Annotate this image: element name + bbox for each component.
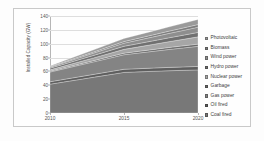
y-tick-label: 60 <box>43 69 48 74</box>
legend-item[interactable]: Garbage <box>205 82 264 92</box>
legend-swatch-icon <box>205 66 208 69</box>
chart-figure: Installed Capacity (GW) 0204060801001201… <box>0 0 264 141</box>
chart-frame: Installed Capacity (GW) 0204060801001201… <box>13 8 251 127</box>
legend-item-label: Coal fired <box>211 113 232 118</box>
chart-legend: PhotovoltaicBiomassWind powerHydro power… <box>205 34 264 120</box>
y-tick-mark <box>48 71 50 72</box>
legend-swatch-icon <box>205 75 208 78</box>
stacked-area-series <box>50 16 198 113</box>
y-tick-label: 80 <box>43 55 48 60</box>
y-tick-label: 120 <box>40 27 48 32</box>
legend-item-label: Gas power <box>211 94 235 99</box>
legend-item[interactable]: Nuclear power <box>205 72 264 82</box>
legend-item-label: Oil fired <box>211 103 228 108</box>
legend-swatch-icon <box>205 113 208 116</box>
legend-swatch-icon <box>205 104 208 107</box>
legend-item-label: Garbage <box>211 84 230 89</box>
y-axis-title: Installed Capacity (GW) <box>26 11 31 85</box>
legend-item-label: Hydro power <box>211 65 239 70</box>
legend-item-label: Biomass <box>211 46 230 51</box>
legend-item[interactable]: Coal fired <box>205 110 264 120</box>
legend-swatch-icon <box>205 94 208 97</box>
x-tick-label: 2010 <box>45 116 56 121</box>
legend-swatch-icon <box>205 56 208 59</box>
y-tick-mark <box>48 57 50 58</box>
legend-item[interactable]: Hydro power <box>205 63 264 73</box>
x-tick-label: 2020 <box>193 116 204 121</box>
plot-area: 020406080100120140 201020152020 <box>50 16 198 113</box>
legend-swatch-icon <box>205 47 208 50</box>
legend-item[interactable]: Wind power <box>205 53 264 63</box>
legend-swatch-icon <box>205 85 208 88</box>
legend-item-label: Wind power <box>211 55 237 60</box>
y-tick-label: 140 <box>40 14 48 19</box>
y-tick-mark <box>48 99 50 100</box>
y-tick-label: 20 <box>43 97 48 102</box>
legend-swatch-icon <box>205 37 208 40</box>
legend-item-label: Photovoltaic <box>211 36 238 41</box>
legend-item[interactable]: Photovoltaic <box>205 34 264 44</box>
legend-item[interactable]: Biomass <box>205 44 264 54</box>
y-tick-mark <box>48 85 50 86</box>
y-tick-label: 100 <box>40 41 48 46</box>
legend-item[interactable]: Oil fired <box>205 101 264 111</box>
y-tick-label: 40 <box>43 83 48 88</box>
x-tick-label: 2015 <box>119 116 130 121</box>
legend-item-label: Nuclear power <box>211 75 243 80</box>
legend-item[interactable]: Gas power <box>205 91 264 101</box>
